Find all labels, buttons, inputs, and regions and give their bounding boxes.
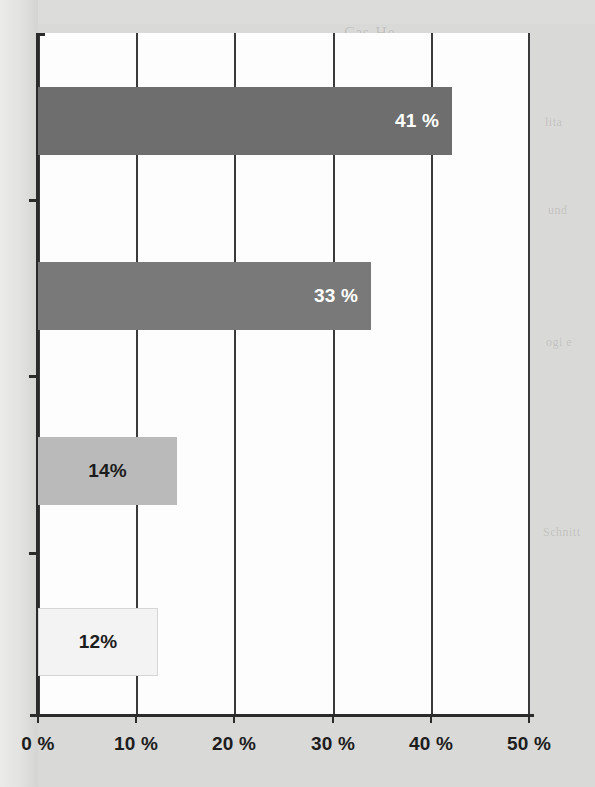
- ghost-text-line3: und: [548, 203, 568, 218]
- bar-4[interactable]: 12%: [38, 608, 158, 676]
- y-tick-2: [29, 375, 39, 378]
- x-axis-label-0: 0 %: [21, 733, 54, 755]
- ghost-text-line5: Schnitt: [543, 525, 581, 540]
- ghost-text-line4: ogi e: [546, 335, 572, 350]
- x-axis-label-50: 50 %: [507, 733, 551, 755]
- ghost-text-line2: lita: [545, 115, 562, 130]
- bar-1[interactable]: 41 %: [38, 87, 452, 155]
- x-tick-20: [233, 714, 235, 723]
- page-left-margin: [0, 0, 38, 787]
- y-tick-3: [29, 552, 39, 555]
- x-axis-line: [30, 714, 534, 717]
- scanned-page: Cas-He lita und ogi e Schnitt 41 % 33 % …: [0, 0, 595, 787]
- bar-2[interactable]: 33 %: [38, 262, 371, 330]
- x-axis-label-30: 30 %: [311, 733, 355, 755]
- x-tick-50: [528, 714, 530, 723]
- bar-3[interactable]: 14%: [38, 437, 177, 505]
- bar-4-value-label: 12%: [79, 631, 118, 653]
- x-tick-10: [135, 714, 137, 723]
- bar-1-value-label: 41 %: [395, 110, 439, 132]
- x-axis-label-20: 20 %: [212, 733, 256, 755]
- y-axis-top-cap: [36, 33, 45, 36]
- x-axis-label-10: 10 %: [114, 733, 158, 755]
- x-tick-40: [430, 714, 432, 723]
- x-tick-0: [37, 714, 39, 723]
- bar-3-value-label: 14%: [88, 460, 127, 482]
- bar-2-value-label: 33 %: [314, 285, 358, 307]
- x-tick-30: [332, 714, 334, 723]
- x-axis-label-40: 40 %: [409, 733, 453, 755]
- gridline-50: [528, 33, 530, 715]
- page-top-band: [0, 0, 595, 24]
- y-tick-1: [29, 199, 39, 202]
